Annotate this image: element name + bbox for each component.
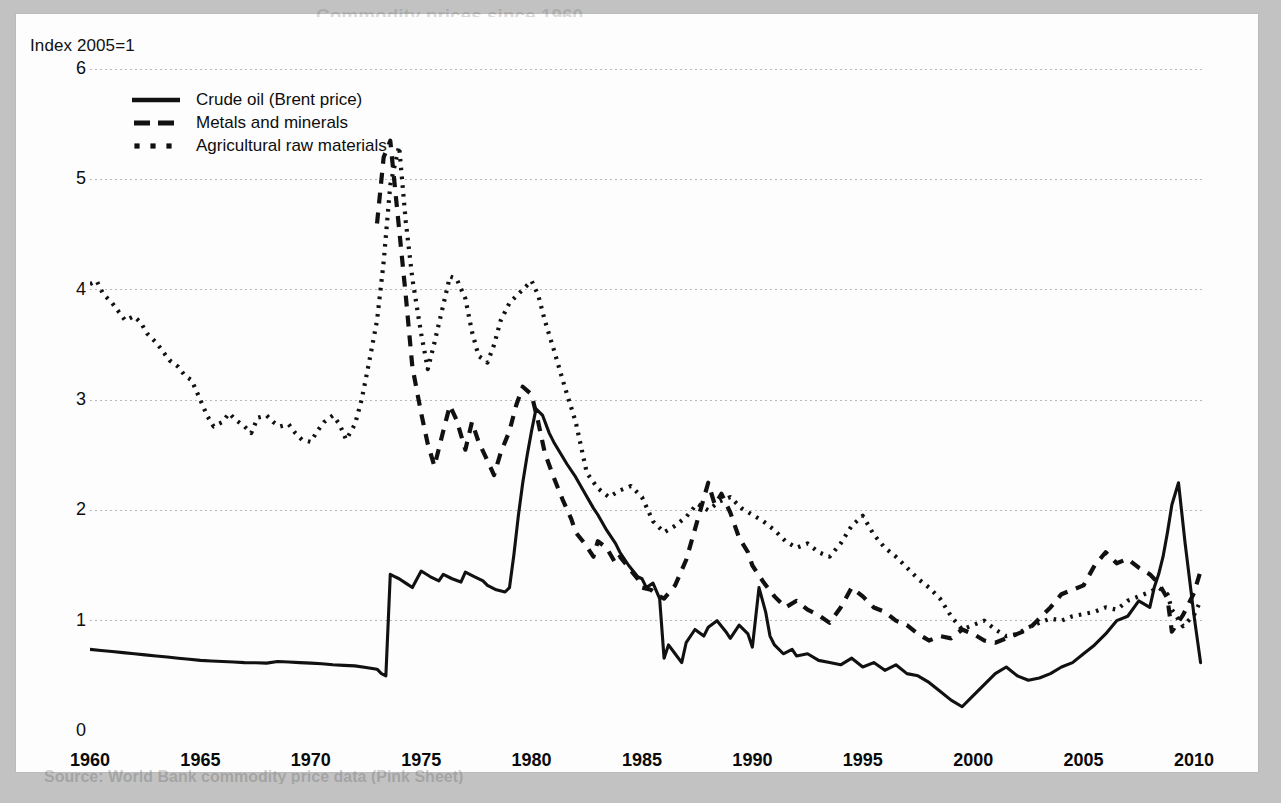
plot-svg [90,69,1205,731]
legend-label-1: Metals and minerals [190,113,348,133]
y-tick-label-4: 4 [64,279,86,300]
x-tick-label-1960: 1960 [70,750,110,771]
document-page: Commodity prices since 1960 Index 2005=1… [16,14,1258,772]
y-tick-label-0: 0 [64,720,86,741]
series-line-2 [90,146,1201,636]
y-tick-label-2: 2 [64,499,86,520]
series-line-1 [377,141,1201,643]
y-tick-label-3: 3 [64,389,86,410]
y-axis-tick-labels: 0123456 [56,69,86,731]
x-tick-label-2005: 2005 [1064,750,1104,771]
x-tick-label-1975: 1975 [401,750,441,771]
x-tick-label-2000: 2000 [953,750,993,771]
solid-line-icon [128,93,190,107]
x-tick-label-1980: 1980 [512,750,552,771]
y-axis-caption: Index 2005=1 [30,36,135,56]
x-tick-label-1990: 1990 [732,750,772,771]
x-tick-label-1970: 1970 [291,750,331,771]
plot-area [90,69,1205,731]
legend-item-0[interactable]: Crude oil (Brent price) [128,88,468,111]
x-tick-label-1965: 1965 [180,750,220,771]
dotted-line-icon [128,139,190,153]
y-tick-label-1: 1 [64,610,86,631]
x-tick-label-2010: 2010 [1174,750,1214,771]
y-tick-label-6: 6 [64,58,86,79]
legend-label-0: Crude oil (Brent price) [190,90,362,110]
dashed-line-icon [128,116,190,130]
legend-item-1[interactable]: Metals and minerals [128,111,468,134]
x-tick-label-1995: 1995 [843,750,883,771]
series-line-0 [90,409,1201,707]
chart-legend: Crude oil (Brent price)Metals and minera… [128,88,468,157]
x-tick-label-1985: 1985 [622,750,662,771]
legend-item-2[interactable]: Agricultural raw materials [128,134,468,157]
commodity-price-chart: Index 2005=1 0123456 1960196519701975198… [16,14,1258,772]
legend-label-2: Agricultural raw materials [190,136,387,156]
x-axis-tick-labels: 1960196519701975198019851990199520002005… [90,750,1205,780]
y-tick-label-5: 5 [64,168,86,189]
scanner-background: Commodity prices since 1960 Index 2005=1… [0,0,1281,803]
series-lines [90,141,1201,707]
